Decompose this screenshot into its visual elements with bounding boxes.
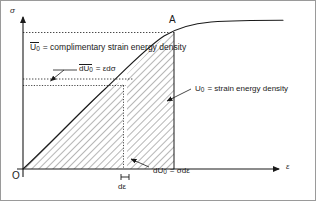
strain-energy-label: U0= strain energy density	[195, 85, 288, 94]
strain-energy-diagram: σ ε O A U0= complimentary strain energy …	[0, 0, 316, 201]
u-bar-symbol: U0	[30, 43, 40, 53]
complimentary-energy-region	[23, 80, 123, 169]
u-symbol: U0	[195, 84, 204, 93]
d-complimentary-energy-label: dU0= εdσ	[79, 65, 116, 74]
d-strain-energy-text: = σdε	[170, 166, 190, 175]
complimentary-energy-text: = complimentary strain energy density	[43, 42, 186, 52]
complimentary-energy-label: U0= complimentary strain energy density	[30, 43, 186, 53]
d-epsilon-label: dε	[118, 183, 126, 191]
x-axis-label: ε	[286, 163, 290, 171]
d-u-bar-symbol: dU0	[79, 65, 93, 74]
point-a-label: A	[169, 15, 176, 25]
y-axis-label: σ	[10, 7, 15, 15]
d-u-symbol: dU0	[153, 166, 167, 175]
d-complimentary-energy-text: = εdσ	[96, 64, 116, 73]
d-strain-energy-label: dU0= σdε	[153, 167, 190, 176]
strain-energy-region	[127, 33, 174, 169]
origin-label: O	[12, 171, 20, 181]
strain-energy-text: = strain energy density	[207, 84, 288, 93]
d-epsilon-tick	[121, 174, 129, 180]
